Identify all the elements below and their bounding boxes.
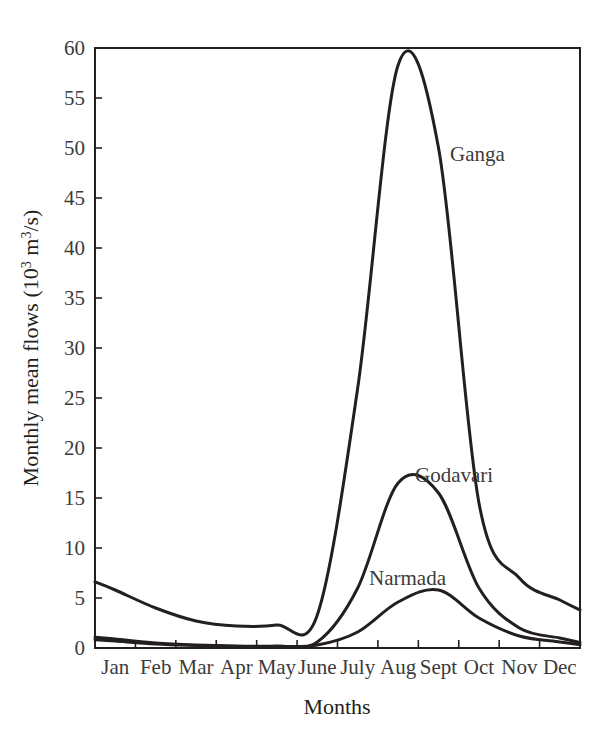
x-axis-title: Months bbox=[303, 694, 370, 719]
series-group bbox=[95, 51, 580, 648]
x-axis-tick-label: Nov bbox=[501, 655, 538, 679]
y-axis-tick-labels: 051015202530354045505560 bbox=[64, 36, 85, 660]
y-axis-title-superscript-1: 3 bbox=[19, 261, 34, 268]
series-line-ganga bbox=[95, 51, 580, 635]
series-label-narmada: Narmada bbox=[369, 566, 447, 590]
y-axis-title-part-2: m bbox=[18, 239, 43, 262]
plot-frame bbox=[95, 48, 580, 648]
x-axis-tick-label: July bbox=[340, 655, 376, 679]
y-axis-tick-label: 45 bbox=[64, 186, 85, 210]
y-axis-tick-label: 10 bbox=[64, 536, 85, 560]
series-annotations: GangaGodavariNarmada bbox=[369, 142, 505, 590]
y-axis-tick-label: 20 bbox=[64, 436, 85, 460]
x-axis-tick-label: June bbox=[298, 655, 337, 679]
y-axis-tick-label: 15 bbox=[64, 486, 85, 510]
y-axis-tick-label: 35 bbox=[64, 286, 85, 310]
figure-container: 051015202530354045505560 JanFebMarAprMay… bbox=[0, 0, 606, 738]
y-axis-tick-label: 25 bbox=[64, 386, 85, 410]
y-axis-tick-label: 40 bbox=[64, 236, 85, 260]
y-axis-tick-label: 50 bbox=[64, 136, 85, 160]
y-axis-title: Monthly mean flows (103 m3/s) bbox=[18, 210, 43, 487]
series-line-godavari bbox=[95, 475, 580, 648]
y-axis-title-part-3: /s) bbox=[18, 210, 43, 232]
y-axis-tick-label: 5 bbox=[75, 586, 86, 610]
x-axis-tick-label: May bbox=[258, 655, 297, 679]
y-axis-tick-label: 60 bbox=[64, 36, 85, 60]
x-axis-tick-label: Oct bbox=[464, 655, 494, 679]
y-axis-tick-label: 30 bbox=[64, 336, 85, 360]
x-axis-tick-labels: JanFebMarAprMayJuneJulyAugSeptOctNovDec bbox=[101, 655, 576, 679]
x-axis-tick-label: Apr bbox=[220, 655, 253, 679]
x-axis-tick-label: Sept bbox=[420, 655, 458, 679]
line-chart: 051015202530354045505560 JanFebMarAprMay… bbox=[0, 0, 606, 738]
x-axis-tick-label: Dec bbox=[543, 655, 577, 679]
x-axis-tick-label: Jan bbox=[101, 655, 129, 679]
x-axis-tick-label: Mar bbox=[179, 655, 214, 679]
series-label-godavari: Godavari bbox=[415, 463, 493, 487]
y-axis-title-superscript-2: 3 bbox=[19, 232, 34, 239]
series-label-ganga: Ganga bbox=[450, 142, 505, 166]
x-axis-tick-label: Aug bbox=[380, 655, 417, 679]
y-axis-ticks bbox=[95, 98, 102, 598]
y-axis-tick-label: 55 bbox=[64, 86, 85, 110]
y-axis-tick-label: 0 bbox=[75, 636, 86, 660]
x-axis-tick-label: Feb bbox=[140, 655, 172, 679]
y-axis-title-part-1: Monthly mean flows (10 bbox=[18, 268, 43, 486]
